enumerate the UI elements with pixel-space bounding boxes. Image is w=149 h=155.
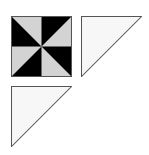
bottom-triangle — [11, 86, 72, 147]
right-triangle — [81, 16, 142, 77]
bottom-triangle-fill — [12, 87, 72, 147]
pinwheel-square — [11, 16, 72, 77]
right-triangle-fill — [82, 17, 142, 77]
